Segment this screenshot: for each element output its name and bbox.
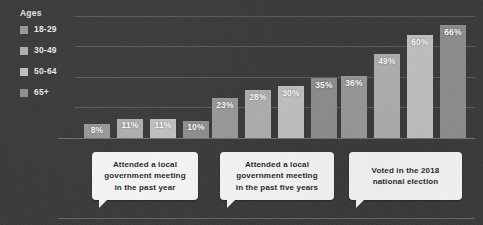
bar-value-g3-65-plus: 66%	[444, 27, 462, 37]
bar-g1-65-plus[interactable]: 10%	[183, 121, 209, 138]
callout-2-line-1: Attended a local	[236, 159, 318, 171]
bar-g2-65-plus[interactable]: 35%	[311, 78, 337, 138]
callout-1-line-3: in the past year	[104, 182, 185, 194]
bar-g3-18-29[interactable]: 36%	[341, 76, 367, 138]
callout-2-tail	[227, 199, 236, 208]
callout-3: Voted in the 2018 national election	[349, 152, 462, 200]
bar-g3-65-plus[interactable]: 66%	[440, 25, 466, 138]
bar-g3-30-49[interactable]: 49%	[374, 54, 400, 138]
callout-2: Attended a local government meeting in t…	[220, 152, 334, 200]
bar-g2-50-64[interactable]: 30%	[278, 86, 304, 138]
bar-g2-18-29[interactable]: 23%	[212, 98, 238, 138]
bar-group-1: 8% 11% 11% 10%	[84, 0, 209, 138]
bar-value-g1-50-64: 11%	[154, 120, 171, 130]
callout-1-line-1: Attended a local	[104, 159, 185, 171]
bar-g1-30-49[interactable]: 11%	[117, 119, 143, 138]
callout-3-tail	[356, 199, 365, 208]
bar-value-g1-65-plus: 10%	[187, 122, 205, 132]
bar-g1-18-29[interactable]: 8%	[84, 124, 110, 138]
bar-value-g1-30-49: 11%	[121, 120, 138, 130]
bar-value-g1-18-29: 8%	[91, 125, 104, 135]
axis-baseline	[58, 138, 475, 139]
callout-1-line-2: government meeting	[104, 170, 185, 182]
bar-g3-50-64[interactable]: 60%	[407, 35, 433, 138]
bar-value-g2-18-29: 23%	[216, 100, 234, 110]
callout-3-line-2: national election	[372, 176, 440, 188]
callout-3-line-1: Voted in the 2018	[372, 165, 440, 177]
bar-value-g2-50-64: 30%	[282, 88, 300, 98]
bar-value-g3-18-29: 36%	[345, 78, 363, 88]
bar-group-3: 36% 49% 60% 66%	[341, 0, 466, 138]
callout-2-line-3: in the past five years	[236, 182, 318, 194]
bar-group-2: 23% 28% 30% 35%	[212, 0, 337, 138]
callout-1: Attended a local government meeting in t…	[92, 152, 198, 200]
bar-g1-50-64[interactable]: 11%	[150, 119, 176, 138]
bar-value-g3-30-49: 49%	[378, 56, 396, 66]
plot-area: 8% 11% 11% 10% 23% 28% 30% 35%	[0, 0, 483, 138]
bar-value-g2-65-plus: 35%	[315, 80, 333, 90]
bar-g2-30-49[interactable]: 28%	[245, 90, 271, 138]
bar-chart: Ages 18-29 30-49 50-64 65+ 8% 11%	[0, 0, 483, 225]
callout-1-tail	[99, 199, 108, 208]
callout-2-line-2: government meeting	[236, 170, 318, 182]
bar-value-g3-50-64: 60%	[411, 37, 429, 47]
bar-value-g2-30-49: 28%	[249, 92, 267, 102]
gridline-bottom	[58, 218, 475, 219]
